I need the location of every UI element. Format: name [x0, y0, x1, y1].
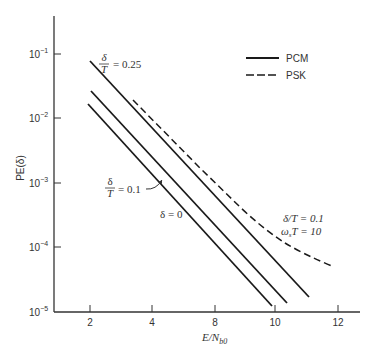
annotation-delta-0: δ = 0 [160, 208, 183, 220]
y-tick-label: 10−1 [29, 47, 48, 60]
x-axis-label: E/Nb0 [201, 331, 227, 346]
svg-text:δ: δ [107, 175, 112, 187]
legend: PCM PSK [246, 53, 308, 81]
annotation-0-1: δ T = 0.1 [105, 175, 162, 199]
x-tick-label: 4 [149, 317, 155, 328]
svg-text:T: T [107, 187, 114, 199]
annotation-0-25: δ T = 0.25 [99, 51, 142, 75]
y-axis-label: PE(δ) [15, 155, 26, 181]
x-tick-label: 2 [87, 317, 93, 328]
svg-text:T: T [101, 63, 108, 75]
series-pcm-01 [91, 91, 287, 303]
x-tick-label: 12 [332, 317, 344, 328]
y-ticks: 10−1 10−2 10−3 10−4 10−5 [29, 47, 61, 318]
svg-text:= 0.1: = 0.1 [118, 183, 141, 195]
y-tick-label: 10−5 [29, 305, 48, 318]
pe-vs-snr-chart: 10−1 10−2 10−3 10−4 10−5 2 4 8 10 12 PE(… [0, 0, 379, 353]
x-tick-label: 8 [212, 317, 218, 328]
y-tick-label: 10−4 [29, 240, 48, 253]
y-tick-label: 10−3 [29, 176, 48, 189]
svg-text:δ/T = 0.1: δ/T = 0.1 [283, 212, 324, 224]
svg-text:ωsT = 10: ωsT = 10 [281, 225, 322, 239]
series-psk [133, 100, 332, 266]
svg-text:δ: δ [101, 51, 107, 63]
annotation-psk: δ/T = 0.1 ωsT = 10 [281, 212, 324, 239]
series-pcm-0 [88, 104, 272, 306]
svg-text:= 0.25: = 0.25 [113, 58, 142, 70]
series-pcm-025 [90, 61, 309, 297]
legend-psk-label: PSK [286, 70, 306, 81]
x-tick-label: 10 [269, 317, 281, 328]
y-tick-label: 10−2 [29, 111, 48, 124]
legend-pcm-label: PCM [286, 53, 308, 64]
x-ticks: 2 4 8 10 12 [87, 305, 344, 328]
